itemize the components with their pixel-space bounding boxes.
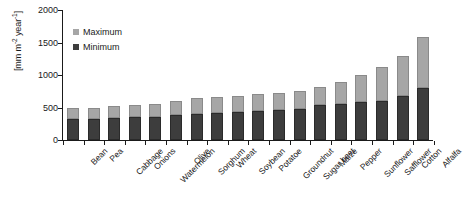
x-tick-mark <box>310 141 311 145</box>
x-tick-mark <box>166 141 167 145</box>
x-tick-mark <box>290 141 291 145</box>
y-tick-mark-1000 <box>58 75 62 76</box>
x-tick-mark <box>228 141 229 145</box>
x-tick-mark <box>63 141 64 145</box>
x-tick-mark <box>269 141 270 145</box>
x-tick-mark <box>84 141 85 145</box>
x-tick-mark <box>351 141 352 145</box>
x-tick-mark <box>434 141 435 145</box>
y-tick-mark-500 <box>58 108 62 109</box>
x-tick-mark <box>248 141 249 145</box>
x-axis-label-alfalfa: Alfalfa <box>439 146 462 169</box>
x-tick-mark <box>331 141 332 145</box>
x-tick-mark <box>145 141 146 145</box>
x-tick-mark <box>413 141 414 145</box>
x-axis-label-bean: Bean <box>88 146 109 167</box>
x-tick-mark <box>372 141 373 145</box>
x-tick-mark <box>125 141 126 145</box>
y-tick-mark-0 <box>58 140 62 141</box>
x-tick-mark <box>187 141 188 145</box>
x-tick-mark <box>207 141 208 145</box>
x-axis-label-maize: Maize <box>336 146 359 169</box>
x-axis-label-pea: Pea <box>107 146 125 164</box>
x-tick-mark <box>393 141 394 145</box>
y-tick-mark-1500 <box>58 43 62 44</box>
x-tick-mark <box>104 141 105 145</box>
y-tick-mark-2000 <box>58 10 62 11</box>
x-axis-label-pepper: Pepper <box>358 146 384 172</box>
